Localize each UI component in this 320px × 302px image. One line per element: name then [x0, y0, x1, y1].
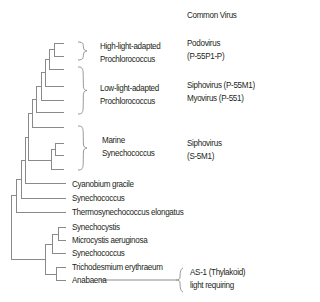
column-header-common-virus: Common Virus: [187, 9, 237, 20]
taxon-label-anabaena: Anabaena: [72, 274, 106, 285]
virus-label-line2: (S-5M1): [187, 150, 222, 163]
virus-label-line1: Siphovirus (P-55M1): [187, 79, 255, 92]
annotation-bracket: [176, 268, 183, 292]
virus-label-siphovirus-s5m1: Siphovirus (S-5M1): [187, 137, 222, 162]
taxon-label-thermosynechococcus-elongatus: Thermosynechococcus elongatus: [72, 206, 183, 217]
virus-label-podovirus: Podovirus (P-55P1-P): [187, 37, 224, 62]
group-label-line1: Marine: [102, 134, 155, 147]
taxon-label-synechococcus: Synechococcus: [72, 192, 125, 203]
group-label-line2: Prochlorococcus: [100, 95, 159, 108]
taxon-label-microcystis-aeruginosa: Microcystis aeruginosa: [72, 234, 147, 245]
taxon-label-synechococcus-2: Synechococcus: [72, 247, 125, 258]
group-bracket-1: [78, 67, 87, 114]
group-label-marine-synechococcus: Marine Synechococcus: [102, 134, 155, 159]
group-label-low-light-prochlorococcus: Low-light-adapted Prochlorococcus: [100, 82, 159, 107]
annotation-line2: light requiring: [190, 279, 245, 292]
virus-label-siphovirus-myovirus: Siphovirus (P-55M1) Myovirus (P-551): [187, 79, 255, 104]
annotation-as1-thylakoid: AS-1 (Thylakoid) light requiring: [190, 266, 245, 291]
group-label-high-light-prochlorococcus: High-light-adapted Prochlorococcus: [100, 40, 160, 65]
group-label-line2: Prochlorococcus: [100, 53, 160, 66]
taxon-label-synechocystis: Synechocystis: [72, 221, 120, 232]
virus-label-line1: Siphovirus: [187, 137, 222, 150]
taxon-label-cyanobium-gracile: Cyanobium gracile: [72, 178, 134, 189]
group-bracket-0: [78, 42, 87, 60]
annotation-line1: AS-1 (Thylakoid): [190, 266, 245, 279]
virus-label-line2: (P-55P1-P): [187, 50, 224, 63]
group-bracket-2: [78, 126, 87, 170]
group-label-line2: Synechococcus: [102, 147, 155, 160]
virus-label-line2: Myovirus (P-551): [187, 92, 255, 105]
group-label-line1: Low-light-adapted: [100, 82, 159, 95]
virus-label-line1: Podovirus: [187, 37, 224, 50]
taxon-label-trichodesmium-erythraeum: Trichodesmium erythraeum: [72, 261, 163, 272]
group-label-line1: High-light-adapted: [100, 40, 160, 53]
